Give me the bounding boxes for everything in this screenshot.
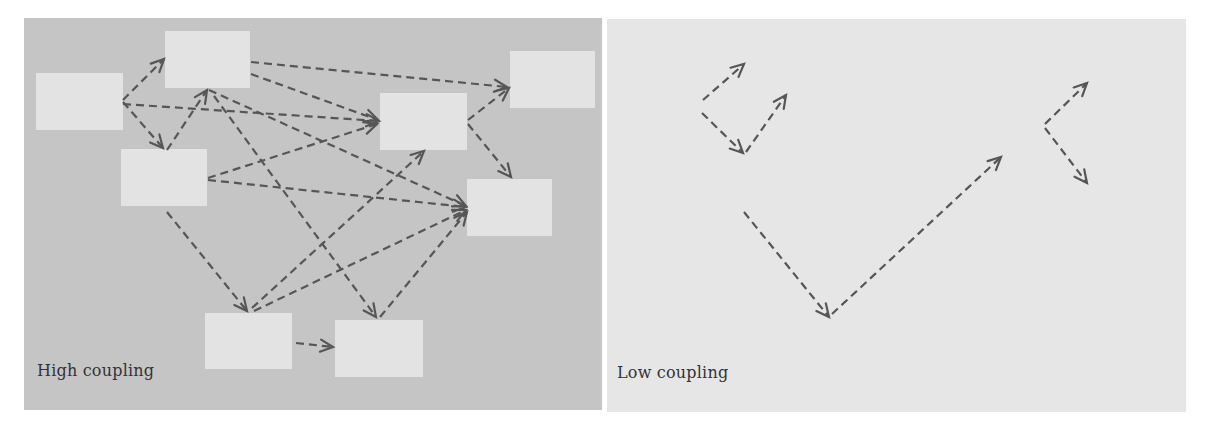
module-box-h	[335, 320, 423, 377]
module-box-a	[36, 73, 123, 130]
low-coupling-panel	[607, 19, 1186, 412]
panel-background	[607, 19, 1186, 412]
module-box-g	[205, 313, 292, 369]
module-box-e	[510, 51, 595, 108]
module-box-c	[121, 149, 207, 206]
coupling-diagram: High coupling Low coupling	[0, 0, 1206, 437]
low-coupling-label: Low coupling	[617, 363, 728, 382]
diagram-canvas	[0, 0, 1206, 437]
high-coupling-panel	[24, 18, 602, 410]
module-box-d	[380, 93, 467, 150]
module-box-b	[165, 31, 250, 88]
module-box-f	[467, 179, 552, 236]
high-coupling-label: High coupling	[37, 361, 154, 380]
